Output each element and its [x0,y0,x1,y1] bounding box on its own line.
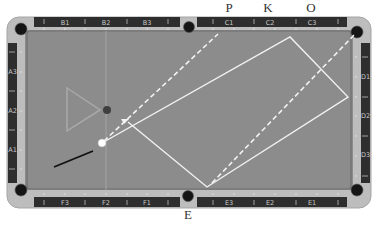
rail-label-e2: E2 [266,199,274,207]
pocket-bottom-left [15,184,27,196]
marker-letter-p: P [225,0,232,16]
rail-label-a3: A3 [8,68,17,76]
pocket-bottom-middle [183,191,194,202]
rail-label-c2: C2 [266,19,275,27]
marker-letter-k: K [263,0,272,16]
rail-label-a1: A1 [8,146,17,154]
rail-label-b2: B2 [102,19,111,27]
pocket-bottom-right [351,184,363,196]
object-ball [103,106,111,114]
marker-letter-e: E [184,207,192,223]
table-svg: B1 B2 B3 C1 C2 C3 F3 F2 F1 E3 E2 E1 A3 A… [0,0,377,228]
rail-label-e1: E1 [308,199,316,207]
rail-label-f1: F1 [143,199,151,207]
marker-letter-o: O [306,0,315,16]
rail-label-a2: A2 [8,107,17,115]
rail-label-f3: F3 [61,199,69,207]
rail-label-b3: B3 [143,19,152,27]
rail-label-c1: C1 [225,19,234,27]
rail-label-b1: B1 [61,19,70,27]
rail-label-e3: E3 [225,199,233,207]
rail-label-d2: D2 [361,112,370,120]
rail-label-d3: D3 [361,151,370,159]
rail-label-c3: C3 [308,19,317,27]
cue-ball [98,139,106,147]
rail-label-d1: D1 [361,73,370,81]
pocket-top-middle [184,22,195,33]
pocket-top-left [15,23,27,35]
rail-label-f2: F2 [102,199,110,207]
table-felt [25,30,353,190]
billiards-diagram: B1 B2 B3 C1 C2 C3 F3 F2 F1 E3 E2 E1 A3 A… [0,0,377,228]
